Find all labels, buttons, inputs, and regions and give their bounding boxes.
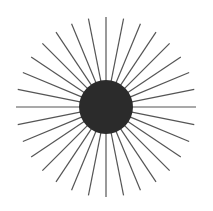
sun-disc (79, 80, 133, 134)
sunburst-figure (0, 0, 213, 211)
